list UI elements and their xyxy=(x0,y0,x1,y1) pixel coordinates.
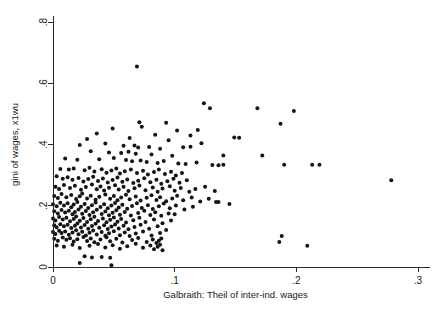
data-point xyxy=(64,216,68,220)
data-point xyxy=(77,207,81,211)
data-point xyxy=(158,231,162,235)
data-point xyxy=(103,142,107,146)
data-point xyxy=(68,236,72,240)
data-point xyxy=(169,218,173,222)
data-point xyxy=(101,176,105,180)
data-point xyxy=(88,231,92,235)
data-point xyxy=(95,233,99,237)
data-point xyxy=(95,131,99,135)
data-point xyxy=(113,222,117,226)
data-point xyxy=(164,121,168,125)
data-point xyxy=(137,216,141,220)
data-point xyxy=(134,195,138,199)
data-point xyxy=(109,169,113,173)
data-point xyxy=(105,235,109,239)
data-point xyxy=(112,229,116,233)
data-point xyxy=(83,254,87,258)
data-point xyxy=(95,208,99,212)
data-point xyxy=(58,201,62,205)
data-point xyxy=(389,178,393,182)
data-point xyxy=(145,196,149,200)
data-point xyxy=(118,213,122,217)
data-point xyxy=(74,228,78,232)
data-point xyxy=(84,209,88,213)
data-point xyxy=(174,203,178,207)
data-point xyxy=(133,186,137,190)
data-point xyxy=(170,154,174,158)
data-point xyxy=(78,246,82,250)
data-point xyxy=(145,240,149,244)
data-point xyxy=(57,215,61,219)
data-point xyxy=(141,246,145,250)
data-point xyxy=(180,171,184,175)
data-point xyxy=(142,176,146,180)
data-point xyxy=(136,236,140,240)
data-point xyxy=(80,212,84,216)
data-point xyxy=(106,206,110,210)
data-point xyxy=(91,175,95,179)
data-point xyxy=(178,181,182,185)
data-point xyxy=(255,106,259,110)
data-point xyxy=(86,227,90,231)
data-point xyxy=(53,218,57,222)
y-tick-label: .6 xyxy=(38,79,49,88)
data-point xyxy=(62,245,66,249)
data-point xyxy=(120,180,124,184)
data-point xyxy=(79,188,83,192)
data-point xyxy=(140,125,144,129)
data-point xyxy=(94,222,98,226)
data-point xyxy=(128,234,132,238)
data-point xyxy=(106,227,110,231)
data-point xyxy=(168,206,172,210)
data-point xyxy=(55,225,59,229)
data-point xyxy=(154,178,158,182)
data-point xyxy=(62,224,66,228)
data-point xyxy=(176,161,180,165)
data-point xyxy=(126,150,130,154)
data-point xyxy=(83,168,87,172)
data-point xyxy=(163,172,167,176)
data-point xyxy=(214,200,218,204)
data-point xyxy=(119,151,123,155)
data-point xyxy=(135,64,139,68)
data-point xyxy=(310,163,314,167)
data-point xyxy=(129,214,133,218)
data-point xyxy=(150,153,154,157)
data-point xyxy=(156,224,160,228)
data-point xyxy=(98,205,102,209)
data-point xyxy=(305,244,309,248)
data-point xyxy=(221,163,225,167)
data-point xyxy=(68,186,72,190)
data-points-layer xyxy=(51,64,393,267)
data-point xyxy=(282,163,286,167)
data-point xyxy=(72,166,76,170)
data-point xyxy=(62,183,66,187)
data-point xyxy=(152,218,156,222)
data-point xyxy=(72,203,76,207)
data-point xyxy=(174,173,178,177)
data-point xyxy=(191,205,195,209)
data-point xyxy=(61,177,65,181)
data-point xyxy=(193,187,197,191)
data-point xyxy=(77,176,81,180)
data-point xyxy=(137,120,141,124)
data-point xyxy=(118,233,122,237)
data-point xyxy=(63,229,67,233)
data-point xyxy=(165,179,169,183)
data-point xyxy=(98,237,102,241)
data-point xyxy=(101,217,105,221)
data-point xyxy=(103,210,107,214)
data-point xyxy=(55,174,59,178)
data-point xyxy=(158,195,162,199)
y-axis-ticks: 0.2.4.6.8 xyxy=(38,17,54,269)
data-point xyxy=(126,189,130,193)
data-point xyxy=(78,261,82,265)
data-point xyxy=(156,190,160,194)
data-point xyxy=(107,150,111,154)
data-point xyxy=(175,194,179,198)
data-point xyxy=(88,213,92,217)
data-point xyxy=(67,209,71,213)
data-point xyxy=(77,232,81,236)
data-point xyxy=(60,208,64,212)
data-point xyxy=(162,159,166,163)
